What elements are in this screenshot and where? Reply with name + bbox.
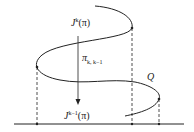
arrow-down-icon xyxy=(76,99,81,105)
label-jk-pi: Jk(π) xyxy=(71,17,90,28)
label-jk1-pi: Jk−1(π) xyxy=(64,110,90,121)
label-jk1-arg: (π) xyxy=(78,110,90,121)
turning-point-left xyxy=(36,66,39,69)
turning-point-q xyxy=(158,98,161,101)
base-point-middle xyxy=(131,123,133,125)
label-q: Q xyxy=(147,72,154,82)
label-jk1-sup: k−1 xyxy=(68,110,77,116)
base-point-right xyxy=(158,123,160,125)
turning-point-top xyxy=(131,27,134,30)
label-projection-sub: k, k−1 xyxy=(87,59,102,65)
diagram-canvas xyxy=(0,0,194,132)
label-projection: πk, k−1 xyxy=(82,53,102,65)
base-point-left xyxy=(36,123,38,125)
label-jk-arg: (π) xyxy=(78,17,90,28)
